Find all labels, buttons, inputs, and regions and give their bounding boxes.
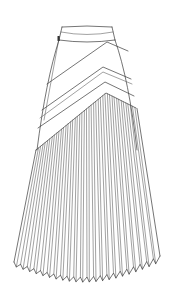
pleated-section-top bbox=[36, 93, 136, 150]
skirt-sketch bbox=[0, 0, 177, 299]
side-zipper bbox=[44, 36, 60, 120]
chevron-panel-middle bbox=[38, 67, 134, 128]
side-seams bbox=[37, 40, 137, 150]
waistband bbox=[59, 26, 115, 42]
pleats bbox=[14, 94, 160, 282]
